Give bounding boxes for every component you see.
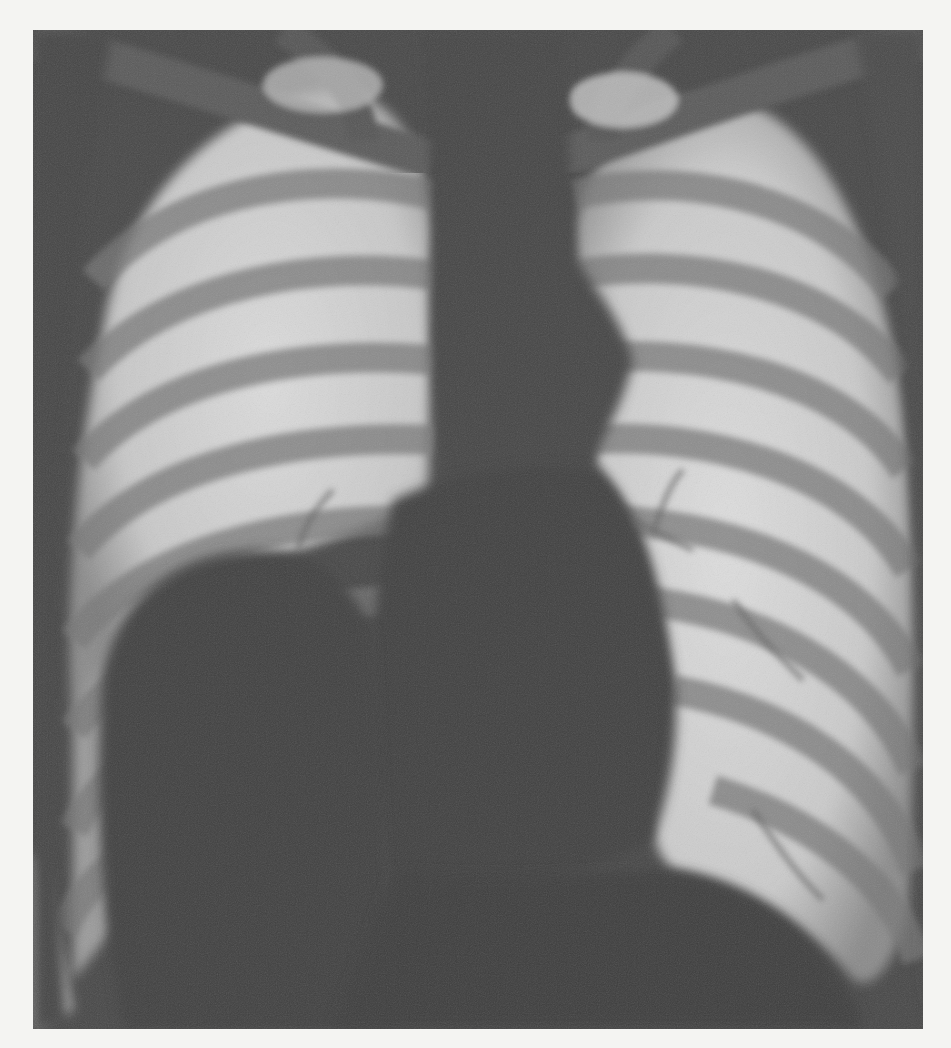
xray-illustration: [33, 30, 923, 1029]
chest-xray-image: [33, 30, 923, 1029]
